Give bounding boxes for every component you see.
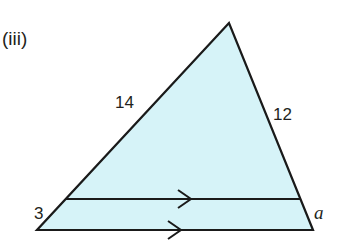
- segment-label-3: 3: [34, 204, 43, 223]
- side-label-14: 14: [115, 93, 134, 112]
- triangle-diagram: (iii) 14 12 3 a: [0, 0, 338, 249]
- segment-label-a: a: [314, 202, 324, 223]
- question-label: (iii): [2, 28, 27, 49]
- side-label-12: 12: [273, 105, 292, 124]
